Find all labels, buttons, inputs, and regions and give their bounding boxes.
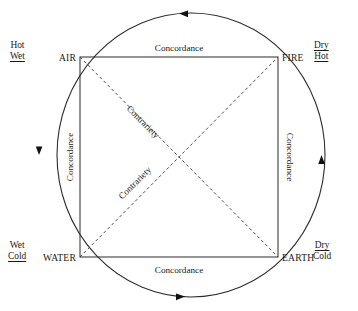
relation-label-concordance-top: Concordance <box>155 43 203 53</box>
element-label-water: WATER <box>43 252 76 263</box>
quality-fire-second: Hot <box>314 51 329 62</box>
element-label-air: AIR <box>59 52 77 63</box>
quality-water-second: Cold <box>8 251 26 262</box>
element-label-fire: FIRE <box>282 52 304 63</box>
relation-label-contrariety-upper: Contrariety <box>125 104 162 141</box>
element-label-earth: EARTH <box>282 252 314 263</box>
quality-pair-air: Hot Wet <box>10 40 25 62</box>
quality-fire-first: Dry <box>314 40 329 51</box>
quality-pair-water: Wet Cold <box>8 240 26 262</box>
quality-air-first: Hot <box>10 40 25 51</box>
arrow-right-icon <box>318 155 325 164</box>
relation-label-contrariety-lower: Contrariety <box>117 164 154 201</box>
quality-water-first: Wet <box>8 240 26 251</box>
arrow-bottom-icon <box>176 293 185 300</box>
relation-label-concordance-left: Concordance <box>65 133 75 181</box>
diagram-canvas: AIR FIRE WATER EARTH Concordance Concord… <box>0 0 358 311</box>
arrow-left-icon <box>36 146 43 155</box>
quality-pair-earth: Dry Cold <box>313 240 331 262</box>
quality-earth-first: Dry <box>313 240 331 251</box>
elements-diagram: AIR FIRE WATER EARTH Concordance Concord… <box>0 0 358 311</box>
quality-air-second: Wet <box>10 51 25 62</box>
diagonal-water-fire <box>80 57 278 257</box>
quality-pair-fire: Dry Hot <box>314 40 329 62</box>
relation-label-concordance-right: Concordance <box>285 133 295 181</box>
relation-label-concordance-bottom: Concordance <box>155 265 203 275</box>
quality-earth-second: Cold <box>313 251 331 262</box>
arrow-top-icon <box>179 10 188 17</box>
